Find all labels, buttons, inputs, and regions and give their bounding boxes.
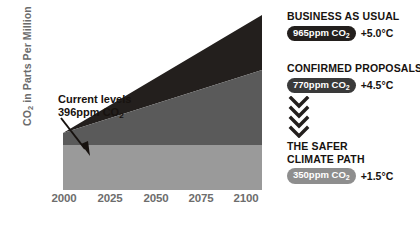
legend-title-safer-climate-path-line2: CLIMATE PATH: [287, 153, 420, 166]
legend-title-business-as-usual: BUSINESS AS USUAL: [287, 10, 420, 23]
pill-ppm-safer-climate-path: 350ppm CO2: [287, 168, 356, 184]
pill-ppm-text-safer-climate-path: 350ppm CO: [293, 169, 346, 180]
pill-ppm-text-confirmed-proposals: 770ppm CO: [293, 79, 346, 90]
y-axis-label-subscript: 2: [26, 106, 35, 110]
temp-confirmed-proposals: +4.5°C: [361, 79, 394, 91]
x-tick-2050: 2050: [143, 192, 168, 204]
temp-safer-climate-path: +1.5°C: [361, 170, 394, 182]
current-levels-subscript: 2: [119, 111, 123, 120]
pill-ppm-subscript-business-as-usual: 2: [346, 32, 350, 39]
legend-title-safer-climate-path-line1: THE SAFER: [287, 140, 420, 153]
x-tick-2000: 2000: [51, 192, 76, 204]
legend: BUSINESS AS USUAL 965ppm CO2 +5.0°C CONF…: [287, 0, 420, 226]
legend-item-business-as-usual: BUSINESS AS USUAL 965ppm CO2 +5.0°C: [287, 10, 420, 41]
x-tick-2025: 2025: [97, 192, 122, 204]
down-right-arrow-icon: [59, 116, 105, 162]
legend-row-safer-climate-path: 350ppm CO2 +1.5°C: [287, 168, 420, 184]
pill-ppm-text-business-as-usual: 965ppm CO: [293, 27, 346, 38]
chevron-down-stack-icon: [288, 96, 314, 138]
x-tick-2075: 2075: [188, 192, 213, 204]
legend-item-confirmed-proposals: CONFIRMED PROPOSALS 770ppm CO2 +4.5°C: [287, 62, 420, 93]
legend-title-confirmed-proposals: CONFIRMED PROPOSALS: [287, 62, 420, 75]
y-axis-label-pre: CO: [21, 110, 33, 126]
legend-row-business-as-usual: 965ppm CO2 +5.0°C: [287, 26, 420, 42]
pill-ppm-subscript-confirmed-proposals: 2: [346, 84, 350, 91]
legend-row-confirmed-proposals: 770ppm CO2 +4.5°C: [287, 78, 420, 94]
legend-item-safer-climate-path: THE SAFER CLIMATE PATH 350ppm CO2 +1.5°C: [287, 140, 420, 184]
climate-projection-infographic: CO2 in Parts Per Million Current levels …: [0, 0, 420, 226]
x-tick-2100: 2100: [233, 192, 258, 204]
pill-ppm-subscript-safer-climate-path: 2: [346, 174, 350, 181]
current-levels-line1: Current levels: [58, 93, 178, 106]
pill-ppm-confirmed-proposals: 770ppm CO2: [287, 78, 356, 94]
pill-ppm-business-as-usual: 965ppm CO2: [287, 26, 356, 42]
y-axis-label: CO2 in Parts Per Million: [14, 0, 40, 126]
y-axis-label-post: in Parts Per Million: [21, 6, 33, 106]
temp-business-as-usual: +5.0°C: [361, 27, 394, 39]
